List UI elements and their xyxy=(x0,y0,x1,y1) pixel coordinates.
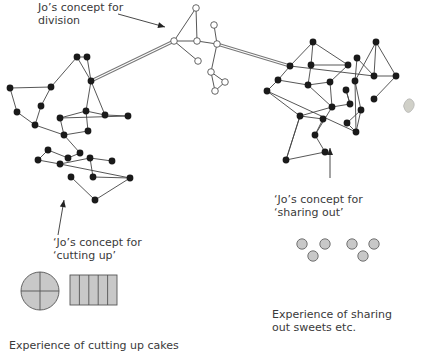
filled-node-icon xyxy=(352,78,359,85)
label-sweets-experience: Experience of sharing out sweets etc. xyxy=(272,308,392,334)
filled-node-icon xyxy=(320,116,327,123)
label-cakes-experience: Experience of cutting up cakes xyxy=(9,339,179,352)
filled-node-icon xyxy=(84,54,91,61)
network-edge xyxy=(64,131,88,135)
network-edge xyxy=(10,87,51,88)
arrowhead-icon xyxy=(60,200,66,207)
filled-node-icon xyxy=(7,85,14,92)
network-edge xyxy=(267,91,356,132)
network-edge xyxy=(35,125,64,135)
network-edge xyxy=(308,85,332,107)
filled-node-icon xyxy=(83,108,90,115)
filled-node-icon xyxy=(45,147,52,154)
filled-node-icon xyxy=(68,174,75,181)
filled-node-icon xyxy=(57,115,64,122)
sweet-icon xyxy=(358,251,368,261)
open-node-icon xyxy=(212,88,219,95)
label-sharing-out: ‘Jo’s concept for ‘sharing out’ xyxy=(274,193,363,219)
network-edge xyxy=(376,42,396,76)
filled-node-icon xyxy=(308,62,315,69)
sweet-icon xyxy=(347,239,357,249)
filled-node-icon xyxy=(92,197,99,204)
filled-node-icon xyxy=(87,155,94,162)
filled-node-icon xyxy=(393,73,400,80)
filled-node-icon xyxy=(371,96,378,103)
network-edges xyxy=(10,8,396,200)
filled-node-icon xyxy=(127,175,134,182)
network-edge xyxy=(211,44,217,72)
filled-node-icon xyxy=(38,103,45,110)
open-node-icon xyxy=(222,79,229,86)
filled-node-icon xyxy=(347,101,354,108)
sweet-icon xyxy=(308,251,318,261)
filled-node-icon xyxy=(329,104,336,111)
label-cutting-up: ‘Jo’s concept for ‘cutting up’ xyxy=(53,236,142,262)
filled-node-icon xyxy=(343,87,350,94)
network-edge xyxy=(174,41,198,61)
network-edge xyxy=(355,81,356,132)
filled-node-icon xyxy=(373,39,380,46)
filled-node-icon xyxy=(297,113,304,120)
network-edge xyxy=(64,135,80,153)
sweet-icon xyxy=(320,239,330,249)
filled-node-icon xyxy=(125,113,132,120)
arrowhead-icon xyxy=(157,22,165,28)
network-edge xyxy=(286,152,325,160)
filled-node-icon xyxy=(305,82,312,89)
filled-node-icon xyxy=(287,63,294,70)
filled-node-icon xyxy=(358,107,365,114)
open-node-icon xyxy=(208,69,215,76)
network-edge xyxy=(91,81,105,115)
network-edge xyxy=(95,178,130,200)
filled-node-icon xyxy=(74,54,81,61)
network-edge xyxy=(374,42,376,76)
filled-node-icon xyxy=(48,84,55,91)
filled-node-icon xyxy=(312,132,319,139)
network-edge xyxy=(10,88,17,112)
filled-node-icon xyxy=(275,77,282,84)
filled-node-icon xyxy=(354,55,361,62)
open-node-icon xyxy=(194,38,201,45)
network-edge xyxy=(313,42,348,65)
filled-node-icon xyxy=(32,122,39,129)
pie-cut-in-quarters-icon xyxy=(21,272,59,310)
filled-node-icon xyxy=(344,120,351,127)
filled-node-icon xyxy=(88,78,95,85)
label-division: Jo’s concept for division xyxy=(38,1,123,27)
network-edge xyxy=(51,57,77,87)
filled-node-icon xyxy=(371,73,378,80)
network-edge xyxy=(300,116,323,119)
filled-node-icon xyxy=(345,62,352,69)
network-edge xyxy=(71,177,95,200)
division-arrow xyxy=(118,14,165,27)
filled-node-icon xyxy=(77,150,84,157)
network-edge xyxy=(374,76,396,99)
sweet-icon xyxy=(297,239,307,249)
open-node-icon xyxy=(171,38,178,45)
network-edge xyxy=(286,116,300,160)
filled-node-icon xyxy=(353,129,360,136)
open-node-icon xyxy=(211,22,218,29)
filled-node-icon xyxy=(35,157,42,164)
network-edge xyxy=(196,8,197,41)
filled-node-icon xyxy=(85,128,92,135)
network-edge xyxy=(278,80,308,85)
filled-node-icon xyxy=(14,109,21,116)
filled-node-icon xyxy=(57,161,64,168)
open-node-icon xyxy=(195,58,202,65)
filled-node-icon xyxy=(327,79,334,86)
filled-node-icon xyxy=(65,155,72,162)
bar-cut-in-fifths-icon xyxy=(70,275,117,305)
filled-node-icon xyxy=(109,158,116,165)
network-bridges xyxy=(91,41,290,81)
network-edge xyxy=(290,66,374,76)
network-edge xyxy=(330,65,348,82)
filled-node-icon xyxy=(102,112,109,119)
network-edge xyxy=(174,8,196,41)
filled-node-icon xyxy=(310,39,317,46)
network-nodes xyxy=(7,5,400,204)
open-node-icon xyxy=(214,41,221,48)
filled-node-icon xyxy=(283,157,290,164)
sweets-illustration xyxy=(297,239,379,261)
